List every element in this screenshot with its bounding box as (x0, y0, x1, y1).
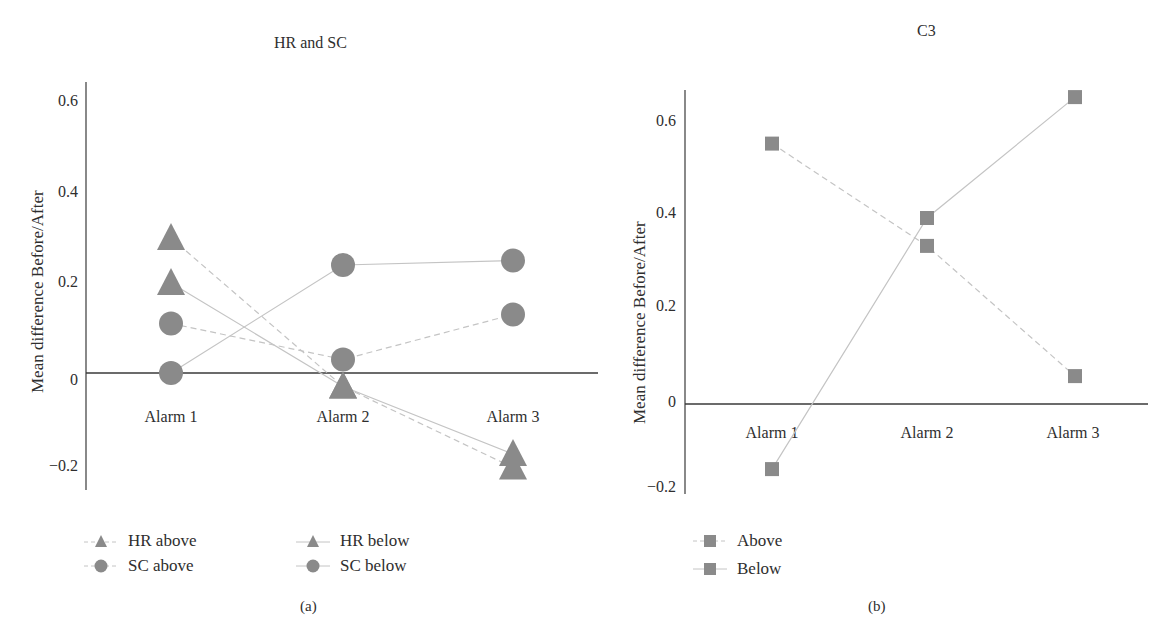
circle-marker-icon (331, 253, 355, 277)
triangle-marker-icon (157, 268, 185, 295)
triangle-marker-icon (157, 223, 185, 250)
square-marker-icon (1068, 369, 1082, 383)
panel-caption: (a) (300, 598, 317, 615)
legend-item-hr-below: HR below (296, 530, 409, 552)
triangle-marker-icon (329, 372, 357, 399)
legend-item-below: Below (693, 558, 781, 580)
legend-label: Below (737, 559, 781, 579)
chart-panel-c3: C3 Mean difference Before/After 0.6 0.4 … (600, 0, 1169, 639)
legend-item-above: Above (693, 530, 782, 552)
panel-caption: (b) (868, 598, 886, 615)
legend-item-hr-above: HR above (84, 530, 196, 552)
legend-label: SC below (340, 556, 407, 576)
circle-marker-icon (501, 249, 525, 273)
legend-item-sc-above: SC above (84, 555, 194, 577)
legend-label: HR above (128, 531, 196, 551)
square-marker-icon (765, 137, 779, 151)
series-line (772, 144, 1075, 377)
circle-solid-marker-icon (296, 558, 330, 574)
square-marker-icon (1068, 90, 1082, 104)
triangle-marker-icon (499, 439, 527, 466)
plot-area (0, 0, 600, 500)
triangle-solid-marker-icon (296, 533, 330, 549)
legend-label: SC above (128, 556, 194, 576)
series-line (772, 97, 1075, 469)
circle-marker-icon (159, 312, 183, 336)
square-marker-icon (765, 462, 779, 476)
circle-dashed-marker-icon (84, 558, 118, 574)
chart-panel-hr-sc: HR and SC Mean difference Before/After 0… (0, 0, 600, 639)
square-marker-icon (920, 211, 934, 225)
circle-marker-icon (501, 303, 525, 327)
plot-area (600, 0, 1169, 510)
legend-label: Above (737, 531, 782, 551)
circle-marker-icon (159, 361, 183, 385)
square-marker-icon (920, 239, 934, 253)
square-solid-marker-icon (693, 561, 727, 577)
legend-item-sc-below: SC below (296, 555, 407, 577)
legend-label: HR below (340, 531, 409, 551)
triangle-dashed-marker-icon (84, 533, 118, 549)
circle-marker-icon (331, 348, 355, 372)
square-dashed-marker-icon (693, 533, 727, 549)
